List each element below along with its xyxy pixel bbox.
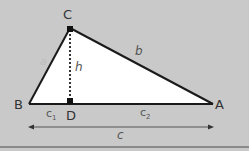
label-b: b xyxy=(135,44,143,58)
label-h: h xyxy=(75,60,83,74)
label-vertex-a: A xyxy=(215,97,224,112)
vertex-c-marker xyxy=(67,26,73,32)
arrow-right-head-icon xyxy=(208,125,214,130)
right-angle-marker xyxy=(67,98,73,104)
label-c2-subscript: 2 xyxy=(146,113,150,121)
label-a: a xyxy=(40,55,47,68)
triangle-diagram: C B A D h b a c 1 c 2 c xyxy=(0,0,249,151)
label-vertex-b: B xyxy=(14,97,23,112)
label-vertex-c: C xyxy=(63,7,72,22)
arrow-left-head-icon xyxy=(28,125,34,130)
label-c1-subscript: 1 xyxy=(52,114,56,122)
label-point-d: D xyxy=(66,108,76,123)
label-c: c xyxy=(117,128,124,142)
bottom-border xyxy=(0,146,249,148)
diagram-svg: C B A D h b a c 1 c 2 c xyxy=(0,0,249,151)
triangle-fill xyxy=(29,28,213,104)
